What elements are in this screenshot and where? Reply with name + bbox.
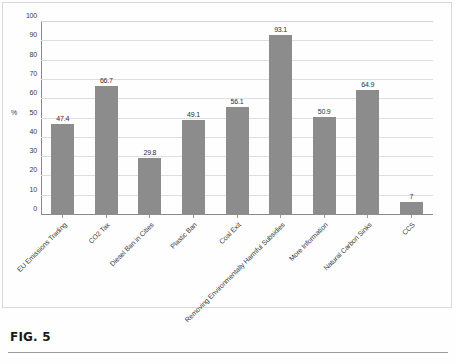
x-axis-tick-mark xyxy=(149,215,150,218)
y-axis-tick-label: 40 xyxy=(30,127,37,134)
y-axis-tick-label: 0 xyxy=(33,205,37,212)
caption-divider xyxy=(8,352,448,353)
x-axis-tick-mark xyxy=(106,215,107,218)
bar-value-label: 66.7 xyxy=(100,77,113,84)
scanned-page: 1009080706050403020100 % 47.466.729.849.… xyxy=(0,0,456,364)
y-axis-tick-label: 60 xyxy=(30,89,37,96)
x-axis-tick-mark xyxy=(193,215,194,218)
figure-caption: FIG. 5 xyxy=(10,330,51,344)
bar[interactable]: 66.7 xyxy=(95,86,118,215)
bar-value-label: 49.1 xyxy=(187,111,200,118)
x-label-slot: Removing Environmentally Harmful Subsidi… xyxy=(259,219,303,305)
bar[interactable]: 7 xyxy=(400,202,423,216)
bar-slot: 64.9 xyxy=(346,22,390,215)
bar-slot: 56.1 xyxy=(215,22,259,215)
y-axis-tick-label: 50 xyxy=(30,108,37,115)
x-axis-category-label: Coal Exit xyxy=(218,221,242,245)
x-label-slot: Diesel Ban in Cities xyxy=(128,219,172,305)
bar[interactable]: 64.9 xyxy=(356,90,379,215)
x-label-slot: EU Emissions Trading xyxy=(41,219,85,305)
x-axis-category-label: CO2 Tax xyxy=(88,221,112,245)
bar[interactable]: 47.4 xyxy=(51,124,74,215)
x-label-slot: CO2 Tax xyxy=(85,219,129,305)
bar-slot: 93.1 xyxy=(259,22,303,215)
y-axis-tick-label: 20 xyxy=(30,166,37,173)
bar[interactable]: 50.9 xyxy=(313,117,336,215)
bar-slot: 49.1 xyxy=(172,22,216,215)
x-axis-tick-mark xyxy=(324,215,325,218)
bar-slot: 29.8 xyxy=(128,22,172,215)
bar[interactable]: 29.8 xyxy=(138,158,161,216)
bar-slot: 47.4 xyxy=(41,22,85,215)
bar-value-label: 93.1 xyxy=(274,26,287,33)
y-axis-tick-label: 90 xyxy=(30,31,37,38)
x-axis-category-label: CCS xyxy=(401,221,416,236)
y-axis-tick-label: 10 xyxy=(30,185,37,192)
bar[interactable]: 56.1 xyxy=(226,107,249,215)
x-label-slot: Coal Exit xyxy=(215,219,259,305)
bar-slot: 66.7 xyxy=(85,22,129,215)
bar-slot: 50.9 xyxy=(302,22,346,215)
x-axis-tick-mark xyxy=(411,215,412,218)
bar-value-label: 56.1 xyxy=(231,98,244,105)
x-label-slot: Natural Carbon Sinks xyxy=(346,219,390,305)
x-label-slot: CCS xyxy=(390,219,434,305)
x-label-slot: More Information xyxy=(302,219,346,305)
bar-value-label: 64.9 xyxy=(361,81,374,88)
bar-value-label: 50.9 xyxy=(318,108,331,115)
bar-value-label: 7 xyxy=(409,193,413,200)
bar-value-label: 29.8 xyxy=(143,149,156,156)
y-axis-title: % xyxy=(11,108,17,115)
bar[interactable]: 93.1 xyxy=(269,35,292,215)
x-axis-tick-mark xyxy=(367,215,368,218)
bars-container: 47.466.729.849.156.193.150.964.97 xyxy=(41,22,433,215)
bar[interactable]: 49.1 xyxy=(182,120,205,215)
x-axis-category-label: Plastic Ban xyxy=(169,221,198,250)
x-axis-labels: EU Emissions TradingCO2 TaxDiesel Ban in… xyxy=(41,219,433,305)
bar-slot: 7 xyxy=(390,22,434,215)
x-axis-tick-mark xyxy=(280,215,281,218)
x-axis-tick-mark xyxy=(237,215,238,218)
bar-value-label: 47.4 xyxy=(56,115,69,122)
y-axis-tick-label: 100 xyxy=(26,12,37,19)
y-axis-tick-label: 30 xyxy=(30,147,37,154)
y-axis-tick-label: 70 xyxy=(30,69,37,76)
x-axis-tick-mark xyxy=(62,215,63,218)
plot-area: 1009080706050403020100 % 47.466.729.849.… xyxy=(41,22,433,215)
x-axis-category-label: EU Emissions Trading xyxy=(16,221,68,273)
y-axis-tick-label: 80 xyxy=(30,50,37,57)
bar-chart: 1009080706050403020100 % 47.466.729.849.… xyxy=(5,8,451,308)
